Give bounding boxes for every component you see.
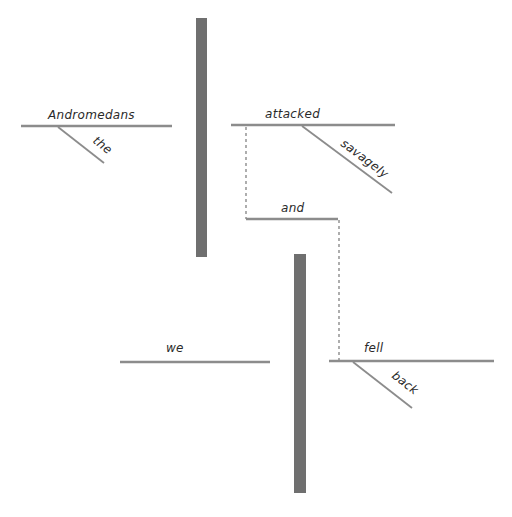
- subject-word-andromedans: Andromedans: [47, 108, 135, 122]
- modifier-word-the: the: [90, 133, 115, 157]
- subject-predicate-divider-2: [294, 254, 306, 493]
- clause-2: we fell back: [120, 254, 494, 493]
- subject-predicate-divider-1: [196, 18, 207, 257]
- sentence-diagram: Andromedans the attacked savagely and we…: [0, 0, 512, 517]
- conjunction-word-and: and: [281, 201, 305, 215]
- predicate-word-fell: fell: [364, 341, 384, 355]
- conjunction-connector: and: [246, 127, 339, 360]
- predicate-word-attacked: attacked: [265, 107, 320, 121]
- subject-word-we: we: [166, 341, 184, 355]
